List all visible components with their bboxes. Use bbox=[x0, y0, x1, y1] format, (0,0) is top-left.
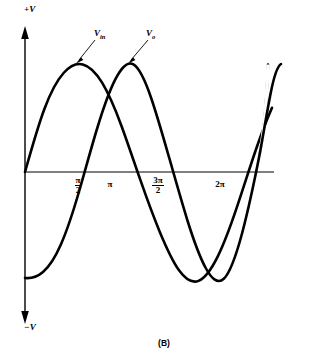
vo-leader-line bbox=[131, 40, 148, 60]
y-axis-arrow-up-icon bbox=[21, 26, 29, 39]
annotation-leader-vo bbox=[128, 40, 148, 64]
vin-arrowhead-icon bbox=[76, 57, 83, 63]
fraction-denominator: 2 bbox=[75, 186, 82, 195]
figure-b-container: +V −V Vin Vo π 2 π 3π 2 2π (B) bbox=[0, 0, 328, 360]
x-tick-label-three-pi-over-2: 3π 2 bbox=[148, 176, 168, 196]
axis-label-negative-v: −V bbox=[24, 322, 36, 332]
annotation-leader-vin bbox=[76, 40, 95, 64]
curve-label-vin-subscript: in bbox=[100, 33, 105, 40]
fraction-three-pi-over-2: 3π 2 bbox=[152, 176, 163, 196]
x-tick-label-pi: π bbox=[104, 180, 116, 189]
figure-caption: (B) bbox=[0, 338, 328, 348]
fraction-denominator: 2 bbox=[152, 186, 163, 195]
vin-leader-line bbox=[79, 40, 95, 60]
curve-label-vo: Vo bbox=[146, 28, 155, 40]
curve-label-vo-subscript: o bbox=[152, 33, 155, 40]
x-tick-label-pi-over-2: π 2 bbox=[70, 176, 86, 196]
fraction-pi-over-2: π 2 bbox=[75, 176, 82, 196]
x-tick-label-two-pi: 2π bbox=[212, 180, 228, 189]
curve-label-vin: Vin bbox=[94, 28, 105, 40]
axis-label-positive-v: +V bbox=[24, 4, 36, 14]
curve-vin bbox=[25, 64, 272, 282]
